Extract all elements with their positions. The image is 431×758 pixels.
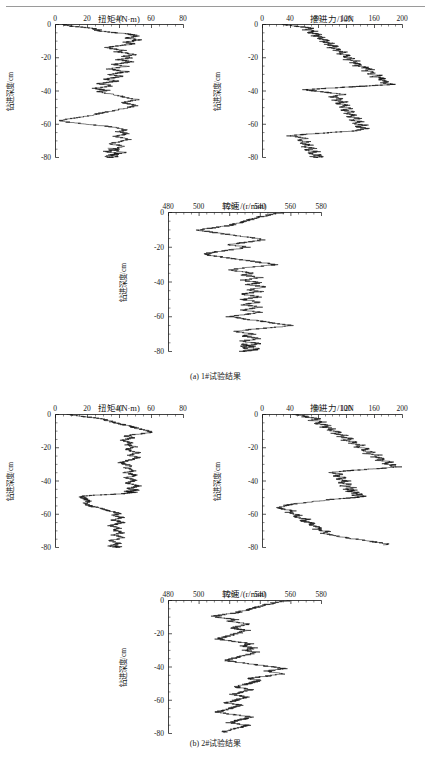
x-tick-label: 60 [147,14,155,23]
x-tick-label: 0 [260,14,264,23]
y-tick-label: -60 [154,695,164,704]
y-axis-label-thrust_a: 钻进深度/cm [211,25,222,158]
x-tick-label: 200 [396,404,407,413]
y-tick-label: -40 [41,476,51,485]
y-tick-label: 0 [254,410,258,419]
y-tick-label: -60 [154,312,164,321]
plot-area-thrust_b [262,414,404,549]
y-tick-label: -60 [248,509,258,518]
x-tick-label: 40 [286,14,294,23]
x-tick-label: 20 [83,14,91,23]
x-tick-label: 520 [224,590,235,599]
axis-spines [263,415,403,548]
x-tick-label: 80 [179,404,187,413]
x-tick-label: 0 [53,14,57,23]
y-tick-labels-torque_a: 0-20-40-60-80 [25,24,53,157]
x-tick-label: 500 [193,590,204,599]
x-tick-label: 160 [368,14,379,23]
x-tick-labels-torque_b: 020406080 [55,404,183,414]
y-tick-label: -80 [41,543,51,552]
x-tick-labels-thrust_b: 04080120160200 [262,404,402,414]
x-tick-labels-speed_b: 480500520540560580 [168,590,321,600]
y-tick-label: 0 [160,596,164,605]
x-tick-label: 500 [193,202,204,211]
y-axis-label-thrust_b: 钻进深度/cm [211,415,222,548]
y-tick-label: 0 [47,410,51,419]
axis-spines [169,601,322,734]
x-tick-label: 540 [254,590,265,599]
data-series-thrust_b [276,415,402,545]
data-series-thrust_a [282,25,395,158]
data-series-torque_b [67,415,152,548]
x-tick-label: 160 [368,404,379,413]
panel-caption-panel-b: (b) 2#试验结果 [0,737,431,748]
y-tick-labels-thrust_a: 0-20-40-60-80 [232,24,260,157]
data-series-speed_a [196,213,293,352]
x-tick-label: 200 [396,14,407,23]
y-tick-label: -80 [154,347,164,356]
x-tick-label: 40 [286,404,294,413]
x-tick-label: 580 [315,202,326,211]
y-tick-label: -20 [41,53,51,62]
x-tick-label: 60 [147,404,155,413]
y-tick-label: -40 [248,86,258,95]
axis-spines [263,25,403,158]
y-tick-label: -80 [41,153,51,162]
y-tick-label: -20 [248,53,258,62]
x-tick-label: 80 [314,404,322,413]
x-tick-labels-speed_a: 480500520540560580 [168,202,321,212]
y-tick-label: -20 [154,242,164,251]
data-series-speed_b [211,601,290,733]
y-tick-label: 0 [47,20,51,29]
x-tick-label: 540 [254,202,265,211]
x-tick-label: 20 [83,404,91,413]
y-tick-labels-speed_b: 0-20-40-60-80 [138,600,166,733]
y-tick-label: -20 [248,443,258,452]
x-tick-label: 560 [285,202,296,211]
y-axis-label-speed_b: 钻进深度/cm [117,601,128,734]
y-tick-label: -40 [41,86,51,95]
data-series-torque_a [59,25,142,158]
y-tick-label: 0 [160,208,164,217]
y-tick-label: -40 [154,277,164,286]
plot-area-thrust_a [262,24,404,159]
y-tick-label: -20 [41,443,51,452]
y-tick-label: 0 [254,20,258,29]
y-tick-label: -60 [41,119,51,128]
x-tick-label: 40 [115,14,123,23]
x-tick-label: 120 [340,14,351,23]
y-axis-label-speed_a: 钻进深度/cm [117,213,128,352]
y-axis-label-torque_b: 钻进深度/cm [4,415,15,548]
y-tick-labels-thrust_b: 0-20-40-60-80 [232,414,260,547]
x-tick-label: 560 [285,590,296,599]
x-tick-label: 580 [315,590,326,599]
x-tick-label: 80 [179,14,187,23]
y-tick-label: -60 [41,509,51,518]
x-tick-label: 0 [260,404,264,413]
y-tick-labels-speed_a: 0-20-40-60-80 [138,212,166,351]
x-tick-labels-thrust_a: 04080120160200 [262,14,402,24]
y-tick-labels-torque_b: 0-20-40-60-80 [25,414,53,547]
x-tick-label: 520 [224,202,235,211]
plot-area-torque_b [55,414,185,549]
page-header-rule [6,6,425,7]
y-tick-label: -80 [248,543,258,552]
y-tick-label: -40 [154,662,164,671]
y-axis-label-torque_a: 钻进深度/cm [4,25,15,158]
x-tick-label: 80 [314,14,322,23]
y-tick-label: -40 [248,476,258,485]
x-tick-label: 120 [340,404,351,413]
y-tick-label: -20 [154,629,164,638]
plot-area-speed_a [168,212,323,353]
plot-area-torque_a [55,24,185,159]
y-tick-label: -80 [248,153,258,162]
axis-spines [169,213,322,352]
plot-area-speed_b [168,600,323,735]
x-tick-labels-torque_a: 020406080 [55,14,183,24]
y-tick-label: -60 [248,119,258,128]
panel-caption-panel-a: (a) 1#试验结果 [0,370,431,381]
x-tick-label: 0 [53,404,57,413]
x-tick-label: 40 [115,404,123,413]
